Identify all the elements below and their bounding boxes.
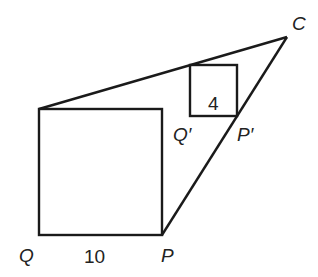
- label-p-prime: P′: [237, 124, 255, 145]
- label-small-side-length: 4: [208, 93, 219, 114]
- label-p: P: [161, 245, 174, 266]
- label-q: Q: [19, 245, 34, 266]
- label-c: C: [292, 13, 306, 34]
- large-square: [39, 109, 162, 235]
- similar-squares-diagram: C Q 10 P 4 Q′ P′: [0, 0, 318, 277]
- label-q-prime: Q′: [173, 124, 193, 145]
- label-large-side-length: 10: [84, 246, 105, 267]
- line-top-to-c: [39, 37, 287, 109]
